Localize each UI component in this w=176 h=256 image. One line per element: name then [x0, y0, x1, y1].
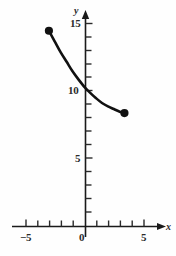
- curve-right-endpoint-dot: [120, 109, 128, 117]
- x-tick-label-neg5: −5: [20, 232, 31, 243]
- y-tick-label-15: 15: [70, 18, 81, 29]
- curve-left-endpoint-dot: [45, 27, 53, 35]
- y-axis-label: y: [74, 6, 78, 16]
- y-axis-arrowhead: [82, 10, 89, 19]
- exponential-decay-curve: [49, 31, 125, 113]
- y-axis-group: [82, 10, 89, 237]
- graph-figure: y x 15 10 5 −5 0 5: [0, 0, 176, 256]
- y-tick-label-10: 10: [68, 85, 79, 96]
- x-axis-group: [12, 223, 166, 230]
- y-tick-label-5: 5: [75, 153, 80, 164]
- x-tick-label-0: 0: [79, 232, 84, 243]
- x-tick-label-5: 5: [141, 232, 146, 243]
- cartesian-plot: [0, 0, 176, 256]
- y-axis-ticks: [86, 24, 93, 213]
- x-axis-label: x: [166, 222, 171, 232]
- x-axis-arrowhead: [157, 223, 166, 230]
